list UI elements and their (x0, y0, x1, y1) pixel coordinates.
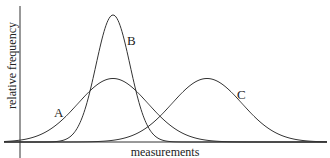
curve-c (4, 79, 327, 143)
x-axis-label: measurements (0, 145, 330, 158)
curve-label-b: B (127, 34, 136, 47)
curve-label-a: A (54, 106, 63, 119)
curve-label-c: C (237, 88, 246, 101)
y-axis-label: relative frequency (5, 16, 20, 116)
chart-plot (0, 0, 330, 158)
curve-b (4, 15, 327, 142)
